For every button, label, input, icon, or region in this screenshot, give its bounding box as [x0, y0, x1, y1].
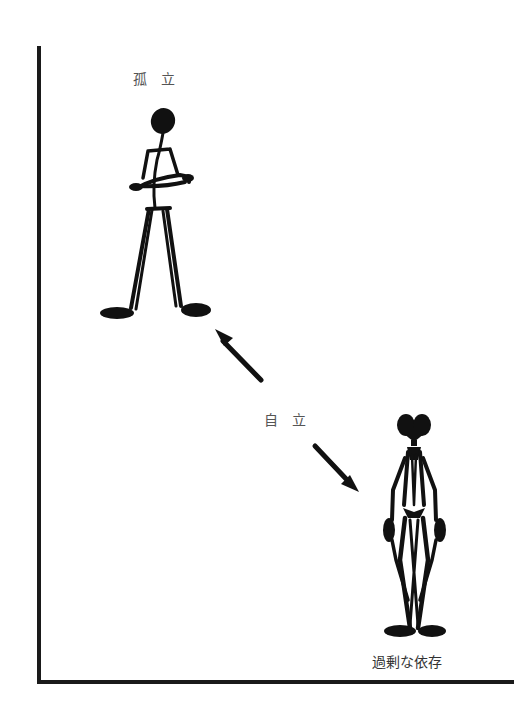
arrow-to-overdependence-icon	[315, 446, 359, 492]
isolation-figure	[100, 105, 211, 319]
overdependence-figure	[383, 414, 446, 637]
arrow-to-isolation-icon	[215, 329, 261, 380]
